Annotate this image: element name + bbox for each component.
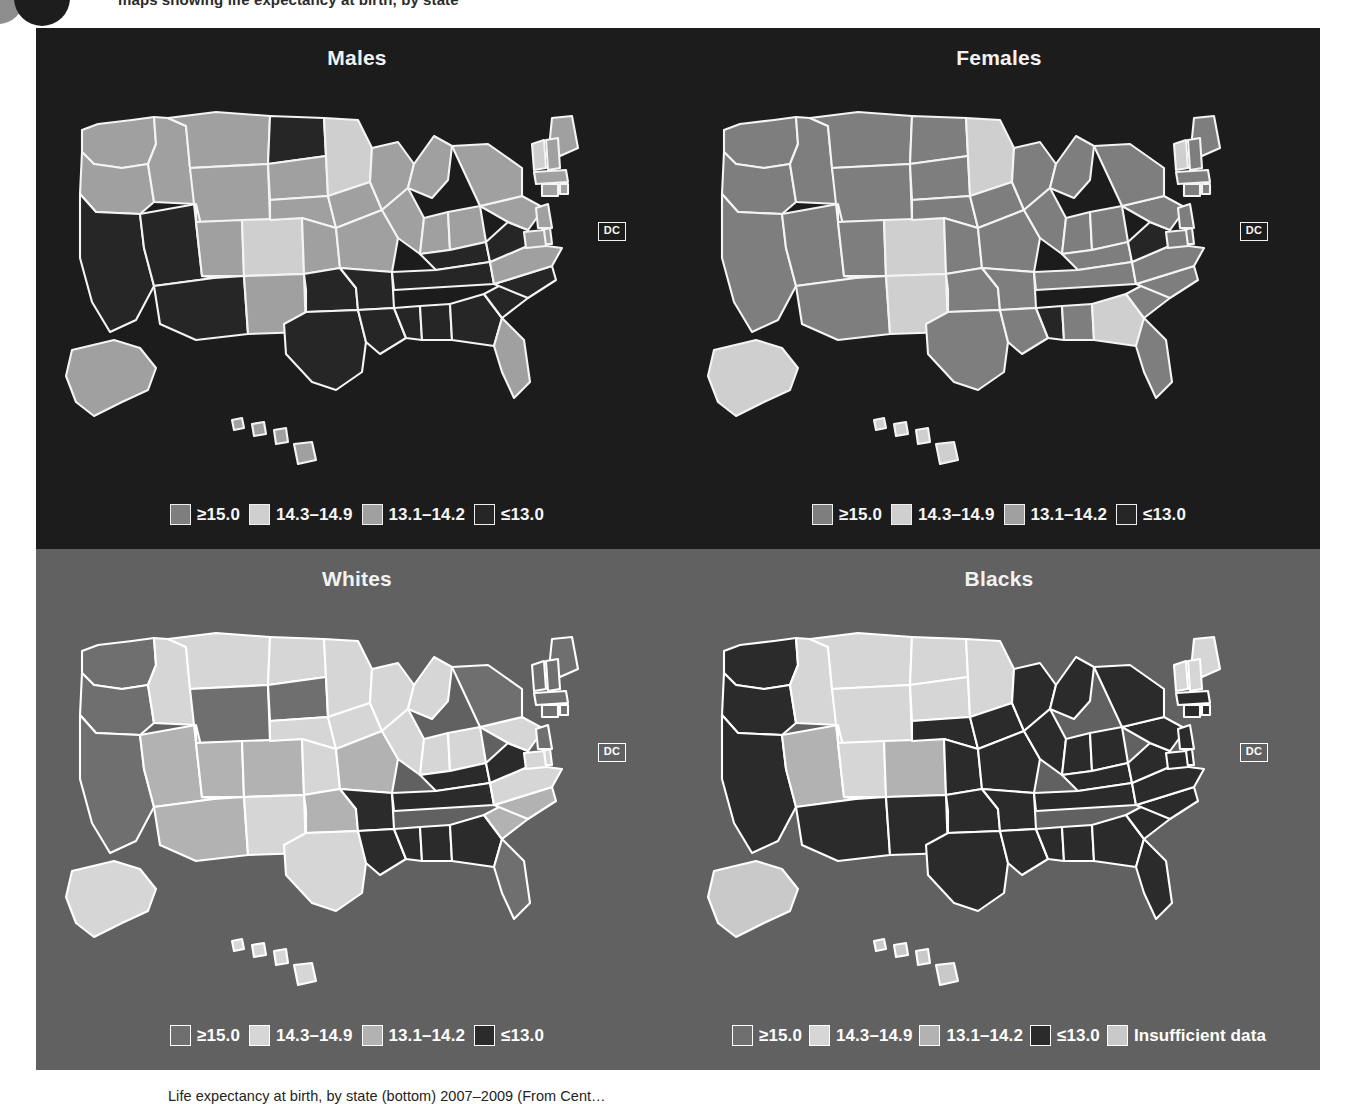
state-al[interactable] [420,304,452,340]
state-vt[interactable] [1174,661,1188,691]
state-ct[interactable] [1184,705,1200,717]
state-in[interactable] [1062,733,1092,775]
state-nh[interactable] [546,659,560,691]
state-ut2[interactable] [838,220,886,276]
state-fl[interactable] [1136,839,1172,919]
state-ct[interactable] [542,184,558,196]
state-hi-2[interactable] [252,422,266,436]
state-hi-2[interactable] [894,422,908,436]
legend-item[interactable]: ≥15.0 [812,504,882,525]
state-nj[interactable] [1178,204,1194,228]
state-co[interactable] [242,739,304,797]
state-ut2[interactable] [196,220,244,276]
legend-item[interactable]: 13.1–14.2 [919,1025,1023,1046]
map-blacks[interactable] [678,593,1320,993]
legend-item[interactable]: ≤13.0 [1030,1025,1100,1046]
state-hi-2[interactable] [894,943,908,957]
state-wa[interactable] [724,117,798,168]
state-md[interactable] [1166,751,1188,769]
state-ma[interactable] [534,691,568,705]
legend-item[interactable]: 13.1–14.2 [1004,504,1108,525]
state-fl[interactable] [1136,318,1172,398]
state-hi-4[interactable] [936,442,958,464]
state-az[interactable] [796,276,890,340]
state-wa[interactable] [82,638,156,689]
state-wy[interactable] [832,164,912,222]
state-tx[interactable] [284,310,366,390]
state-nh[interactable] [1188,138,1202,170]
state-al[interactable] [1062,825,1094,861]
state-hi-1[interactable] [874,939,886,951]
state-ma[interactable] [1176,170,1210,184]
state-mi[interactable] [1050,136,1094,198]
state-ri[interactable] [1202,705,1210,715]
state-wa[interactable] [724,638,798,689]
state-hi-4[interactable] [294,963,316,985]
state-az[interactable] [796,797,890,861]
state-ak[interactable] [708,861,798,937]
state-in[interactable] [1062,212,1092,254]
legend-item[interactable]: ≥15.0 [170,1025,240,1046]
state-vt[interactable] [1174,140,1188,170]
state-tx[interactable] [926,310,1008,390]
state-vt[interactable] [532,661,546,691]
state-co[interactable] [242,218,304,276]
legend-item[interactable]: Insufficient data [1107,1025,1266,1046]
state-nh[interactable] [1188,659,1202,691]
state-nj[interactable] [536,725,552,749]
state-in[interactable] [420,733,450,775]
state-hi-2[interactable] [252,943,266,957]
legend-item[interactable]: 14.3–14.9 [249,1025,353,1046]
state-al[interactable] [420,825,452,861]
state-sd[interactable] [910,156,970,200]
state-vt[interactable] [532,140,546,170]
state-ri[interactable] [1202,184,1210,194]
state-wy[interactable] [190,164,270,222]
state-ri[interactable] [560,184,568,194]
state-sd[interactable] [268,156,328,200]
state-co[interactable] [884,218,946,276]
state-mi[interactable] [1050,657,1094,719]
state-ny[interactable] [452,144,522,206]
state-al[interactable] [1062,304,1094,340]
state-nj[interactable] [1178,725,1194,749]
state-sd[interactable] [268,677,328,721]
state-hi-1[interactable] [232,418,244,430]
state-md[interactable] [1166,230,1188,248]
state-ma[interactable] [1176,691,1210,705]
state-ct[interactable] [1184,184,1200,196]
state-hi-3[interactable] [916,949,930,965]
legend-item[interactable]: ≥15.0 [732,1025,802,1046]
map-males[interactable] [36,72,678,472]
state-tx[interactable] [284,831,366,911]
state-hi-4[interactable] [294,442,316,464]
state-ak[interactable] [708,340,798,416]
state-co[interactable] [884,739,946,797]
state-nh[interactable] [546,138,560,170]
legend-item[interactable]: 14.3–14.9 [891,504,995,525]
state-hi-3[interactable] [274,428,288,444]
legend-item[interactable]: 13.1–14.2 [362,504,466,525]
map-females[interactable] [678,72,1320,472]
state-hi-3[interactable] [916,428,930,444]
state-in[interactable] [420,212,450,254]
state-mi[interactable] [408,136,452,198]
state-nj[interactable] [536,204,552,228]
state-hi-1[interactable] [232,939,244,951]
state-ak[interactable] [66,861,156,937]
legend-item[interactable]: ≤13.0 [474,1025,544,1046]
state-ny[interactable] [1094,665,1164,727]
state-ny[interactable] [1094,144,1164,206]
state-md[interactable] [524,751,546,769]
state-ut2[interactable] [838,741,886,797]
state-mi[interactable] [408,657,452,719]
state-ut2[interactable] [196,741,244,797]
state-fl[interactable] [494,318,530,398]
state-hi-1[interactable] [874,418,886,430]
state-fl[interactable] [494,839,530,919]
state-az[interactable] [154,276,248,340]
legend-item[interactable]: 13.1–14.2 [362,1025,466,1046]
state-sd[interactable] [910,677,970,721]
legend-item[interactable]: 14.3–14.9 [809,1025,913,1046]
state-hi-4[interactable] [936,963,958,985]
